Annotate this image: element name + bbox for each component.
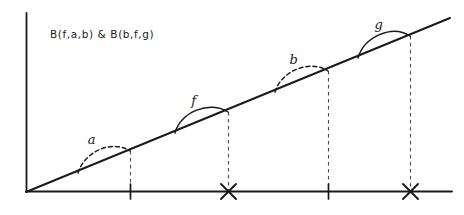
arc-label-f: f: [190, 93, 198, 108]
figure-title: B(f,a,b) & B(b,f,g): [50, 28, 154, 40]
reference-line-group: [26, 18, 450, 192]
diagram-canvas: B(f,a,b) & B(b,f,g) a f b g: [0, 0, 464, 215]
arc-label-a: a: [88, 132, 96, 147]
arc-label-g: g: [375, 17, 384, 32]
droplines-group: [131, 36, 411, 190]
reference-line: [26, 18, 450, 192]
arc-label-b: b: [290, 52, 299, 67]
figure-container: B(f,a,b) & B(b,f,g) a f b g: [0, 0, 464, 215]
